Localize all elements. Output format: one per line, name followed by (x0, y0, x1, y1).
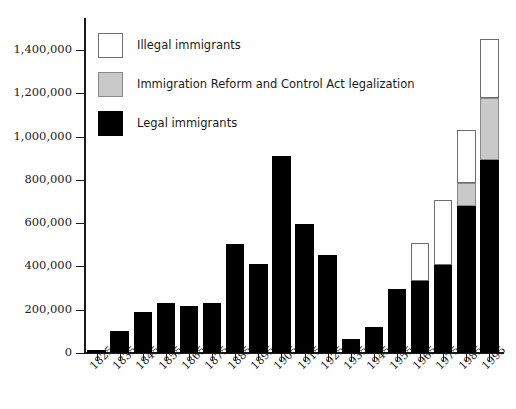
immigration-bar-chart: Illegal immigrants Immigration Reform an… (0, 0, 516, 409)
bar-segment-illegal-1975 (434, 200, 452, 265)
bar-segment-legal-1895 (249, 264, 267, 353)
y-axis-tick-label: 200,000 (24, 304, 72, 316)
bar-segment-irca-1985 (457, 183, 475, 207)
bar-segment-legal-1845 (134, 312, 152, 353)
y-axis-tick (76, 266, 85, 267)
y-axis-tick (76, 310, 85, 311)
bar-1855 (157, 303, 175, 353)
bar-segment-legal-1975 (434, 265, 452, 353)
bar-1975 (434, 200, 452, 353)
y-axis-tick (76, 353, 85, 354)
bar-segment-legal-1855 (157, 303, 175, 353)
bar-1985 (457, 130, 475, 353)
y-axis-tick-label: 800,000 (24, 174, 72, 186)
y-axis-tick-label: 1,200,000 (13, 87, 72, 99)
y-axis-tick (76, 223, 85, 224)
y-axis-tick-label: 600,000 (24, 217, 72, 229)
bar-segment-legal-1875 (203, 303, 221, 353)
bar-1885 (226, 244, 244, 353)
bar-segment-legal-1865 (180, 306, 198, 353)
bar-1825 (87, 350, 105, 353)
bar-1965 (411, 243, 429, 353)
bar-segment-legal-1905 (272, 156, 290, 353)
bar-1875 (203, 303, 221, 353)
bar-segment-legal-1825 (87, 350, 105, 353)
bar-segment-legal-1945 (365, 327, 383, 353)
plot-area (85, 18, 501, 353)
bar-segment-legal-1955 (388, 289, 406, 353)
bar-segment-legal-1935 (342, 339, 360, 353)
bar-1935 (342, 339, 360, 353)
bar-segment-irca-1995 (480, 98, 498, 160)
bar-1915 (295, 224, 313, 353)
bar-segment-illegal-1985 (457, 130, 475, 183)
bar-segment-legal-1885 (226, 244, 244, 353)
bar-1865 (180, 306, 198, 353)
bar-1835 (110, 331, 128, 353)
y-axis-tick (76, 93, 85, 94)
bar-1955 (388, 289, 406, 353)
y-axis-tick (76, 50, 85, 51)
y-axis-tick-label: 0 (65, 347, 72, 359)
bar-segment-legal-1925 (318, 255, 336, 353)
y-axis-tick (76, 137, 85, 138)
bar-segment-illegal-1995 (480, 39, 498, 97)
bar-segment-legal-1835 (110, 331, 128, 353)
y-axis-tick-label: 1,400,000 (13, 44, 72, 56)
bar-segment-legal-1995 (480, 160, 498, 353)
bar-1845 (134, 312, 152, 353)
y-axis-tick-label: 400,000 (24, 260, 72, 272)
bar-segment-illegal-1965 (411, 243, 429, 281)
bar-segment-legal-1965 (411, 281, 429, 353)
y-axis-tick (76, 180, 85, 181)
bar-1925 (318, 255, 336, 353)
bar-1905 (272, 156, 290, 353)
bar-segment-legal-1915 (295, 224, 313, 353)
bar-1895 (249, 264, 267, 353)
bar-1995 (480, 39, 498, 353)
bar-segment-legal-1985 (457, 206, 475, 353)
y-axis-tick-label: 1,000,000 (13, 131, 72, 143)
bar-1945 (365, 327, 383, 353)
